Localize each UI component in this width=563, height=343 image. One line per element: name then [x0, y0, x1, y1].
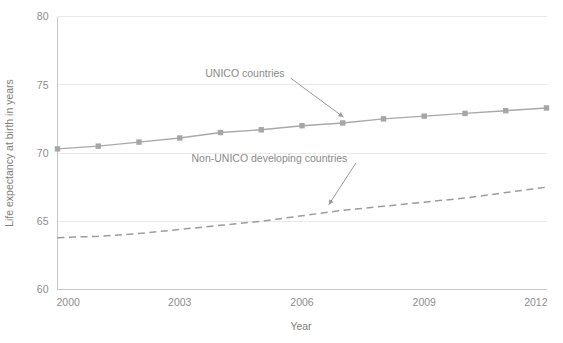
data-point-marker — [259, 127, 264, 132]
x-tick-label-2003: 2003 — [168, 296, 192, 308]
chart-canvas: 6065707580 20002003200620092012 UNICO co… — [0, 0, 563, 343]
data-point-marker — [177, 135, 182, 140]
data-point-marker — [544, 105, 549, 110]
x-axis-title: Year — [290, 320, 312, 332]
data-point-marker — [422, 113, 427, 118]
data-point-marker — [381, 116, 386, 121]
annotation-label-1: Non-UNICO developing countries — [191, 152, 347, 164]
y-tick-label-75: 75 — [37, 79, 49, 91]
y-tick-label-80: 80 — [37, 10, 49, 22]
y-tick-label-65: 65 — [37, 215, 49, 227]
data-point-marker — [218, 130, 223, 135]
data-point-marker — [55, 146, 60, 151]
x-tick-label-2009: 2009 — [413, 296, 437, 308]
y-axis-title: Life expectancy at birth in years — [3, 79, 15, 227]
data-point-marker — [299, 123, 304, 128]
life-expectancy-line-chart: 6065707580 20002003200620092012 UNICO co… — [0, 0, 563, 343]
annotation-label-0: UNICO countries — [205, 67, 284, 79]
data-point-marker — [503, 108, 508, 113]
y-tick-label-70: 70 — [37, 147, 49, 159]
chart-background — [0, 0, 563, 343]
data-point-marker — [96, 143, 101, 148]
x-tick-label-2000: 2000 — [57, 296, 81, 308]
data-point-marker — [462, 111, 467, 116]
x-tick-label-2012: 2012 — [524, 296, 548, 308]
data-point-marker — [340, 120, 345, 125]
x-tick-label-2006: 2006 — [290, 296, 314, 308]
data-point-marker — [136, 139, 141, 144]
y-tick-label-60: 60 — [37, 283, 49, 295]
